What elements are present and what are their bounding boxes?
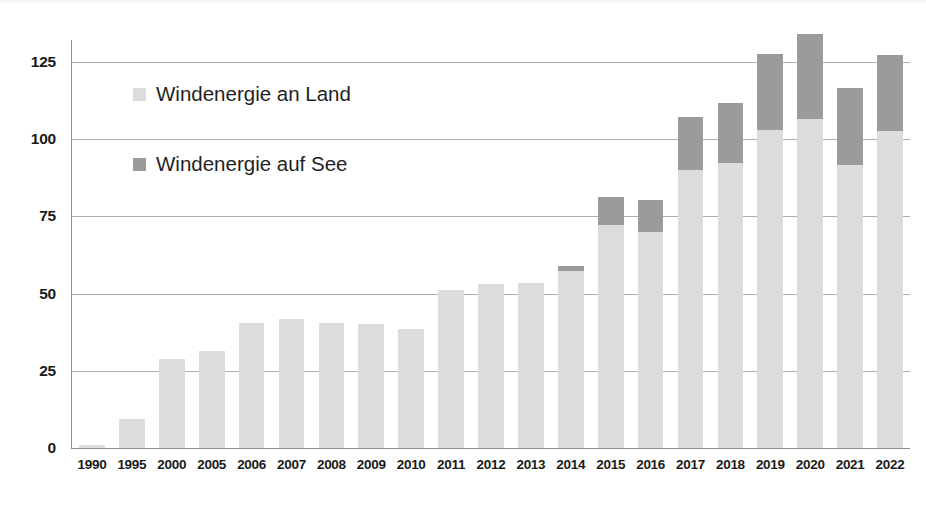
bar-segment-onshore-2011 <box>438 290 464 448</box>
bar-group-2006[interactable] <box>239 62 265 448</box>
x-tick-label-2013: 2013 <box>511 457 551 472</box>
bar-segment-onshore-2005 <box>199 351 225 448</box>
y-tick-label-100: 100 <box>0 130 56 148</box>
bar-segment-offshore-2017 <box>678 117 704 170</box>
bar-group-1995[interactable] <box>119 62 145 448</box>
legend-label-onshore: Windenergie an Land <box>156 84 351 105</box>
bar-segment-onshore-2008 <box>319 323 345 448</box>
legend-item-onshore[interactable]: Windenergie an Land <box>133 84 351 105</box>
y-tick-label-125: 125 <box>0 53 56 71</box>
legend-item-offshore[interactable]: Windenergie auf See <box>133 154 347 175</box>
bar-group-2007[interactable] <box>279 62 305 448</box>
legend-swatch-offshore <box>133 158 146 171</box>
x-tick-label-1990: 1990 <box>72 457 112 472</box>
plot-area <box>72 62 910 448</box>
bar-group-2012[interactable] <box>478 62 504 448</box>
x-tick-label-2012: 2012 <box>471 457 511 472</box>
x-tick-label-2007: 2007 <box>272 457 312 472</box>
y-tick-label-0: 0 <box>0 439 56 457</box>
bar-group-2010[interactable] <box>398 62 424 448</box>
bar-group-2008[interactable] <box>319 62 345 448</box>
x-tick-label-2020: 2020 <box>790 457 830 472</box>
wind-energy-stacked-bar-chart: 0255075100125 19901995200020052006200720… <box>0 0 926 506</box>
bar-segment-onshore-2012 <box>478 284 504 448</box>
bar-group-2022[interactable] <box>877 62 903 448</box>
bar-segment-onshore-2014 <box>558 271 584 448</box>
bar-segment-onshore-2019 <box>757 130 783 448</box>
bar-segment-onshore-2021 <box>837 165 863 448</box>
gridline-0 <box>72 448 910 449</box>
x-tick-label-2000: 2000 <box>152 457 192 472</box>
x-tick-label-2022: 2022 <box>870 457 910 472</box>
bar-segment-offshore-2018 <box>718 103 744 163</box>
bar-group-2016[interactable] <box>638 62 664 448</box>
bar-segment-offshore-2019 <box>757 54 783 130</box>
bar-segment-onshore-1995 <box>119 419 145 448</box>
x-tick-label-2015: 2015 <box>591 457 631 472</box>
bar-segment-offshore-2021 <box>837 88 863 165</box>
bar-segment-onshore-2000 <box>159 359 185 448</box>
bar-segment-offshore-2015 <box>598 197 624 225</box>
x-tick-label-2018: 2018 <box>710 457 750 472</box>
x-tick-label-2010: 2010 <box>391 457 431 472</box>
bars-layer <box>72 62 910 448</box>
bar-segment-onshore-2020 <box>797 119 823 448</box>
bar-segment-onshore-2013 <box>518 283 544 448</box>
bar-group-2017[interactable] <box>678 62 704 448</box>
top-edge-artifact <box>0 0 926 3</box>
bar-segment-onshore-2022 <box>877 131 903 448</box>
bar-segment-onshore-2009 <box>358 324 384 448</box>
bar-segment-onshore-1990 <box>79 445 105 448</box>
bar-group-2020[interactable] <box>797 62 823 448</box>
bar-segment-onshore-2017 <box>678 170 704 448</box>
legend-label-offshore: Windenergie auf See <box>156 154 347 175</box>
bar-group-2009[interactable] <box>358 62 384 448</box>
bar-segment-offshore-2016 <box>638 200 664 232</box>
y-tick-label-25: 25 <box>0 362 56 380</box>
bar-segment-onshore-2007 <box>279 319 305 448</box>
x-tick-label-2008: 2008 <box>311 457 351 472</box>
bar-group-2011[interactable] <box>438 62 464 448</box>
bar-group-2013[interactable] <box>518 62 544 448</box>
x-tick-label-2019: 2019 <box>750 457 790 472</box>
y-tick-label-50: 50 <box>0 285 56 303</box>
bar-segment-onshore-2006 <box>239 323 265 448</box>
bar-segment-offshore-2014 <box>558 266 584 271</box>
x-tick-label-2021: 2021 <box>830 457 870 472</box>
bar-segment-onshore-2010 <box>398 329 424 448</box>
legend-swatch-onshore <box>133 88 146 101</box>
bar-group-2021[interactable] <box>837 62 863 448</box>
bar-group-2000[interactable] <box>159 62 185 448</box>
x-tick-label-2016: 2016 <box>631 457 671 472</box>
y-tick-label-75: 75 <box>0 207 56 225</box>
bar-segment-offshore-2022 <box>877 55 903 131</box>
x-tick-label-1995: 1995 <box>112 457 152 472</box>
x-tick-label-2014: 2014 <box>551 457 591 472</box>
bar-group-2018[interactable] <box>718 62 744 448</box>
bar-group-2014[interactable] <box>558 62 584 448</box>
x-tick-label-2017: 2017 <box>671 457 711 472</box>
x-tick-label-2005: 2005 <box>192 457 232 472</box>
x-tick-label-2009: 2009 <box>351 457 391 472</box>
x-tick-label-2011: 2011 <box>431 457 471 472</box>
x-axis: 1990199520002005200620072008200920102011… <box>72 457 910 481</box>
x-tick-label-2006: 2006 <box>232 457 272 472</box>
bar-group-2019[interactable] <box>757 62 783 448</box>
bar-segment-onshore-2016 <box>638 232 664 448</box>
bar-segment-onshore-2018 <box>718 163 744 448</box>
bar-segment-onshore-2015 <box>598 225 624 448</box>
bar-segment-offshore-2020 <box>797 34 823 118</box>
bar-group-2015[interactable] <box>598 62 624 448</box>
bar-group-1990[interactable] <box>79 62 105 448</box>
bar-group-2005[interactable] <box>199 62 225 448</box>
